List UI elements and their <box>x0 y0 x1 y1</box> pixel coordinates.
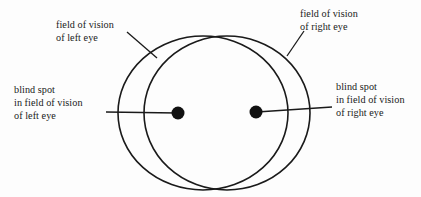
label-line-2: of left eye <box>56 31 114 44</box>
left-blind-spot-dot <box>172 107 185 120</box>
leader-line-blind-right <box>257 107 332 112</box>
label-blind-spot-right-eye: blind spot in field of vision of right e… <box>336 80 405 120</box>
label-line-3: of right eye <box>336 106 405 119</box>
label-line-3: of left eye <box>14 109 83 122</box>
vision-fields-diagram: field of vision of left eye field of vis… <box>0 0 421 197</box>
label-line-1: blind spot <box>336 80 405 93</box>
label-line-1: field of vision <box>56 18 114 31</box>
label-field-of-vision-right-eye: field of vision of right eye <box>300 7 358 33</box>
leader-line-fov-left <box>127 32 157 58</box>
label-line-2: of right eye <box>300 20 358 33</box>
leader-line-blind-left <box>106 112 177 113</box>
label-line-1: blind spot <box>14 83 83 96</box>
label-line-2: in field of vision <box>336 93 405 106</box>
label-field-of-vision-left-eye: field of vision of left eye <box>56 18 114 44</box>
label-line-2: in field of vision <box>14 96 83 109</box>
leader-line-fov-right <box>287 31 304 56</box>
label-blind-spot-left-eye: blind spot in field of vision of left ey… <box>14 83 83 123</box>
right-blind-spot-dot <box>250 106 263 119</box>
label-line-1: field of vision <box>300 7 358 20</box>
